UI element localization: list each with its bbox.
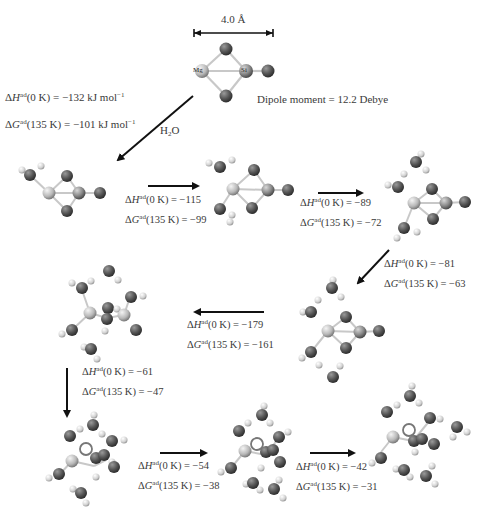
cluster-4h2o	[299, 277, 386, 384]
step5-free-energy: ΔGad(135 K) = −161	[187, 339, 274, 350]
cluster-1h2o	[19, 163, 107, 218]
step4-enthalpy: ΔHad(0 K) = −81	[384, 258, 455, 269]
reactant-label: H2O	[160, 124, 179, 136]
atom-label-mg: Mg	[193, 66, 203, 74]
step3-enthalpy: ΔHad(0 K) = −89	[300, 197, 371, 208]
cluster-4h2o-dissociated	[59, 265, 147, 363]
step4-free-energy: ΔGad(135 K) = −63	[384, 278, 466, 289]
step2-enthalpy: ΔHad(0 K) = −115	[125, 194, 201, 205]
reaction-arrows	[67, 96, 389, 453]
step6-free-energy: ΔGad(135 K) = −47	[82, 386, 164, 397]
step6-enthalpy: ΔHad(0 K) = −61	[82, 366, 153, 377]
scale-bar	[194, 29, 273, 37]
cluster-3h2o	[385, 151, 472, 242]
cluster-7h2o	[369, 383, 471, 488]
dipole-moment-label: Dipole moment = 12.2 Debye	[257, 93, 388, 105]
step5-enthalpy: ΔHad(0 K) = −179	[187, 319, 263, 330]
atom-label-si: Si	[241, 66, 247, 74]
step7-enthalpy: ΔHad(0 K) = −54	[138, 460, 209, 471]
step7-free-energy: ΔGad(135 K) = −38	[138, 480, 220, 491]
cluster-6h2o	[218, 403, 292, 502]
step3-free-energy: ΔGad(135 K) = −72	[300, 217, 382, 228]
step2-free-energy: ΔGad(135 K) = −99	[125, 214, 207, 225]
step1-enthalpy: ΔHad(0 K) = −132 kJ mol−1	[5, 91, 124, 103]
scale-bar-label: 4.0 Å	[221, 13, 245, 25]
cluster-5h2o	[46, 412, 128, 507]
step8-enthalpy: ΔHad(0 K) = −42	[296, 461, 367, 472]
cluster-2h2o	[206, 157, 295, 226]
step8-free-energy: ΔGad(135 K) = −31	[296, 481, 378, 492]
step1-free-energy: ΔGad(135 K) = −101 kJ mol−1	[5, 118, 135, 130]
